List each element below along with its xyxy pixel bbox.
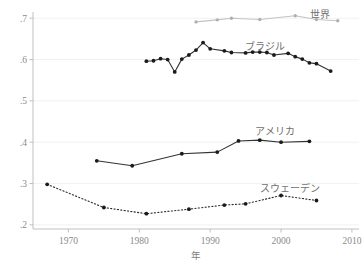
data-point	[152, 59, 156, 63]
chart-canvas: .7.6.5.4.3.2 19701980199020002010 世界ブラジル…	[0, 0, 363, 273]
series-label-3: アメリカ	[255, 126, 295, 137]
x-tick-label-1990: 1990	[201, 236, 220, 246]
series-3	[95, 138, 311, 167]
data-point	[307, 139, 311, 143]
series-line	[97, 140, 310, 166]
y-tick-label-.4: .4	[20, 138, 27, 148]
data-point	[187, 53, 191, 57]
data-point	[315, 199, 319, 203]
series-labels-group: 世界ブラジルアメリカスウェーデン	[245, 9, 330, 194]
data-point	[173, 70, 177, 74]
y-tick-label-.2: .2	[20, 220, 27, 230]
data-point	[336, 19, 339, 22]
data-point	[294, 14, 297, 17]
y-tick-label-.6: .6	[20, 55, 27, 65]
data-point	[237, 139, 241, 143]
data-point	[286, 51, 290, 55]
data-point	[258, 18, 261, 21]
y-axis-tick-labels: .7.6.5.4.3.2	[20, 14, 27, 231]
data-point	[293, 55, 297, 59]
series-label-2: ブラジル	[245, 40, 285, 52]
data-point	[144, 212, 148, 216]
y-tick-label-.7: .7	[20, 14, 27, 24]
series-line	[146, 43, 330, 72]
data-point	[279, 140, 283, 144]
data-point	[194, 48, 198, 52]
y-tick-label-.5: .5	[20, 96, 27, 106]
data-point	[315, 62, 319, 66]
data-point	[187, 207, 191, 211]
series-label-1: 世界	[310, 9, 330, 20]
data-point	[95, 159, 99, 163]
data-point	[208, 47, 212, 51]
data-point	[215, 150, 219, 154]
data-point	[222, 203, 226, 207]
data-point	[201, 41, 205, 45]
data-point	[230, 17, 233, 20]
data-point	[180, 57, 184, 61]
data-point	[300, 57, 304, 61]
data-point	[180, 152, 184, 156]
data-point	[329, 69, 333, 73]
x-tick-label-2000: 2000	[272, 236, 291, 246]
data-point	[130, 164, 134, 168]
line-chart: .7.6.5.4.3.2 19701980199020002010 世界ブラジル…	[0, 0, 363, 273]
x-axis-tick-labels: 19701980199020002010	[59, 236, 362, 246]
series-2	[144, 41, 332, 74]
series-label-4: スウェーデン	[260, 182, 320, 194]
data-point	[230, 51, 234, 55]
data-point	[216, 18, 219, 21]
x-tick-label-1970: 1970	[59, 236, 78, 246]
x-tick-label-2010: 2010	[342, 236, 361, 246]
data-point	[45, 182, 49, 186]
data-point	[279, 194, 283, 198]
data-point	[194, 20, 197, 23]
data-point	[159, 57, 163, 61]
data-point	[144, 59, 148, 63]
data-point	[272, 53, 276, 57]
x-axis-title: 年	[191, 250, 201, 261]
data-point	[307, 61, 311, 65]
data-point	[166, 58, 170, 62]
y-tick-label-.3: .3	[20, 179, 27, 189]
data-point	[258, 138, 262, 142]
data-point	[222, 49, 226, 53]
x-tick-label-1980: 1980	[130, 236, 149, 246]
data-point	[102, 206, 106, 210]
data-point	[244, 202, 248, 206]
